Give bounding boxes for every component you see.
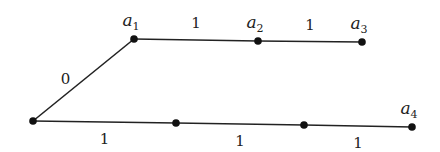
- node-label-a3: a3: [350, 13, 367, 36]
- edge-weight-label: 1: [191, 14, 201, 32]
- edge-weight-label: 1: [100, 130, 110, 148]
- node-label-a1: a1: [122, 10, 139, 33]
- edge-a2-a3: [258, 41, 362, 42]
- edge-weight-label: 1: [305, 16, 315, 34]
- node-a2: [254, 37, 262, 45]
- node-root: [29, 117, 37, 125]
- node-b1: [172, 119, 180, 127]
- edge-a1-a2: [134, 39, 258, 41]
- edge-root-a1: [33, 39, 134, 121]
- node-a3: [358, 38, 366, 46]
- node-a1: [130, 35, 138, 43]
- edge-weight-label: 0: [61, 70, 71, 88]
- node-label-a2: a2: [246, 12, 263, 35]
- edge-root-b1: [33, 121, 176, 123]
- edge-b1-b2: [176, 123, 304, 125]
- tree-diagram: 011111a1a2a3a4: [0, 0, 440, 152]
- node-b2: [300, 121, 308, 129]
- node-label-a4: a4: [400, 98, 417, 121]
- node-a4: [408, 123, 416, 131]
- edge-b2-a4: [304, 125, 412, 127]
- edge-weight-label: 1: [353, 134, 363, 152]
- edge-weight-label: 1: [235, 132, 245, 150]
